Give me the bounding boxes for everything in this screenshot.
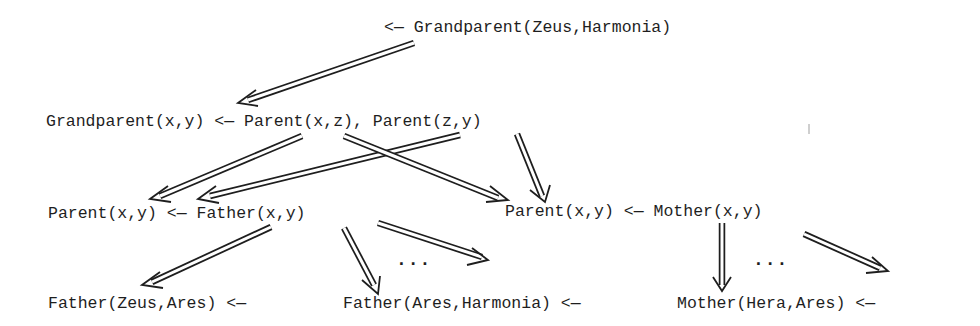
fact-mother-hera-ares: Mother(Hera,Ares) <— [677, 294, 875, 314]
resolution-tree-diagram: <— Grandparent(Zeus,Harmonia) Grandparen… [0, 0, 980, 326]
arrow-parent-zy-to-mother-rule [517, 134, 550, 202]
father-ellipsis: ... [396, 250, 431, 270]
arrow-mother-rule-to-hera-ares [713, 223, 731, 291]
grandparent-rule-clause: Grandparent(x,y) <— Parent(x,z), Parent(… [46, 112, 482, 132]
mother-ellipsis: ... [753, 250, 788, 270]
arrow-mother-rule-to-more [804, 234, 888, 273]
parent-mother-rule-clause: Parent(x,y) <— Mother(x,y) [505, 202, 762, 222]
goal-clause: <— Grandparent(Zeus,Harmonia) [384, 18, 671, 38]
fact-father-ares-harmonia: Father(Ares,Harmonia) <— [343, 294, 581, 314]
arrow-father-rule-to-zeus-ares [142, 227, 271, 288]
arrow-father-rule-to-ares-harmonia [344, 228, 380, 294]
arrow-father-rule-to-more [378, 223, 488, 265]
parent-father-rule-clause: Parent(x,y) <— Father(x,y) [48, 204, 305, 224]
scan-artifact [808, 124, 810, 134]
arrow-goal-to-grandparent [238, 43, 414, 106]
fact-father-zeus-ares: Father(Zeus,Ares) <— [48, 294, 246, 314]
edge-arrows [0, 0, 980, 326]
